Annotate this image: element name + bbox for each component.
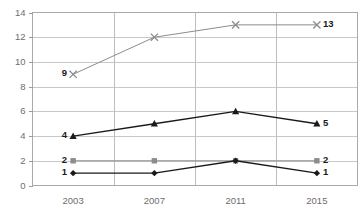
data-point-marker-square [314, 158, 319, 163]
data-point-marker-diamond [70, 170, 76, 176]
y-axis-tick-label: 0 [20, 180, 25, 191]
x-axis-tick-labels: 2003200720112015 [63, 195, 328, 206]
y-axis-tick-label: 12 [15, 31, 26, 42]
y-axis-tick-label: 6 [20, 105, 25, 116]
data-point-marker-triangle [232, 108, 239, 114]
y-axis-tick-label: 4 [20, 130, 25, 141]
data-label-end-series-diamond: 1 [323, 166, 329, 177]
y-axis-tick-labels: 02468101214 [15, 7, 26, 191]
data-label-start-series-x: 9 [62, 67, 67, 78]
x-axis-tick-label: 2007 [144, 195, 165, 206]
y-axis-tick-label: 8 [20, 81, 25, 92]
data-label-end-series-x: 13 [323, 18, 334, 29]
data-label-start-series-diamond: 1 [62, 166, 68, 177]
line-chart: 02468101214 2003200720112015 913452211 [0, 0, 364, 215]
x-axis-tick-label: 2011 [225, 195, 245, 206]
vertical-gridlines [115, 13, 277, 186]
data-label-end-series-square: 2 [323, 154, 328, 165]
data-point-marker-square [152, 158, 157, 163]
data-point-marker-diamond [151, 170, 157, 176]
x-axis-tick-label: 2003 [63, 195, 84, 206]
data-label-start-series-triangle: 4 [62, 129, 68, 140]
y-axis-tick-label: 14 [15, 7, 26, 18]
data-label-end-series-triangle: 5 [323, 117, 329, 128]
series-data-labels: 913452211 [62, 18, 334, 177]
y-axis-tick-label: 10 [15, 56, 26, 67]
data-point-marker-square [70, 158, 75, 163]
data-point-marker-x-cross [70, 71, 77, 78]
y-axis-ticks [29, 14, 33, 187]
chart-canvas: 02468101214 2003200720112015 913452211 [0, 0, 364, 215]
data-point-marker-diamond [314, 170, 320, 176]
data-label-start-series-square: 2 [62, 154, 67, 165]
x-axis-tick-label: 2015 [306, 195, 327, 206]
y-axis-tick-label: 2 [20, 155, 25, 166]
